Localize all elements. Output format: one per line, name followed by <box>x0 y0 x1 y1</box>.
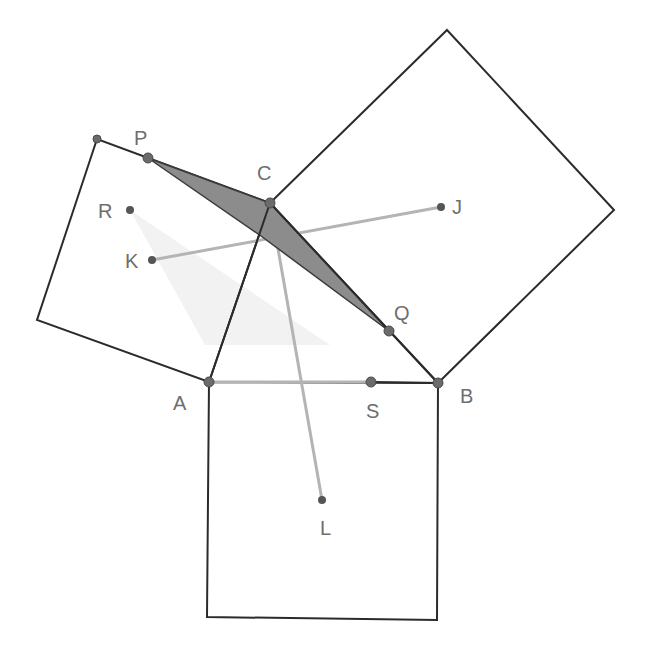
label-b: B <box>460 385 473 407</box>
point-c <box>265 198 275 208</box>
point-a <box>204 377 214 387</box>
point-b <box>433 378 443 388</box>
label-p: P <box>134 127 147 149</box>
point-q <box>384 326 394 336</box>
label-l: L <box>320 517 331 539</box>
point-s <box>366 377 376 387</box>
point-p <box>143 153 153 163</box>
label-r: R <box>98 200 112 222</box>
point-r <box>126 206 134 214</box>
point-l <box>318 496 326 504</box>
label-s: S <box>366 400 379 422</box>
label-j: J <box>452 196 462 218</box>
edge-cb <box>270 203 438 383</box>
point-k <box>148 256 156 264</box>
label-k: K <box>125 250 139 272</box>
faint-shaded-region <box>130 210 330 345</box>
geometry-diagram: A B C P Q R S J K L <box>0 0 651 650</box>
label-q: Q <box>394 302 410 324</box>
label-a: A <box>173 392 187 414</box>
point-square-corner <box>93 135 101 143</box>
segment-sb <box>371 382 438 383</box>
label-c: C <box>257 162 271 184</box>
point-j <box>437 203 445 211</box>
